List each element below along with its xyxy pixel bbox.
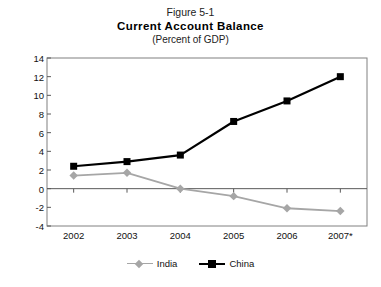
data-point-marker <box>283 204 291 212</box>
x-axis-tick-label: 2006 <box>276 230 297 241</box>
y-axis-tick-label: 4 <box>39 146 44 157</box>
legend-label: India <box>157 258 178 269</box>
y-axis-tick-label: 6 <box>39 127 44 138</box>
legend-marker-square <box>208 260 216 268</box>
data-point-marker <box>337 73 344 80</box>
y-axis-tick-label: -2 <box>36 202 44 213</box>
y-axis-tick-label: 8 <box>39 109 44 120</box>
legend-item-india[interactable]: India <box>127 258 178 269</box>
legend-marker-diamond <box>135 259 143 267</box>
series-india <box>69 169 344 216</box>
data-point-marker <box>229 192 237 200</box>
legend-item-china[interactable]: China <box>199 258 254 269</box>
legend-label: China <box>229 258 254 269</box>
series-line <box>74 77 341 167</box>
x-axis-tick-label: 2003 <box>116 230 137 241</box>
data-point-marker <box>123 169 131 177</box>
data-point-marker <box>70 163 77 170</box>
data-point-marker <box>284 97 291 104</box>
y-axis-tick-label: 10 <box>33 90 44 101</box>
y-axis-labels: 14121086420-2-4 <box>22 52 44 226</box>
y-axis-tick-label: 14 <box>33 53 44 64</box>
figure-container: Figure 5-1 Current Account Balance (Perc… <box>0 0 381 287</box>
y-axis-tick-label: 2 <box>39 165 44 176</box>
plot-frame <box>47 58 367 226</box>
data-point-marker <box>336 207 344 215</box>
data-point-marker <box>230 118 237 125</box>
y-axis-tick-label: 12 <box>33 71 44 82</box>
data-point-marker <box>177 152 184 159</box>
x-axis-tick-label: 2005 <box>223 230 244 241</box>
series-china <box>70 73 344 170</box>
legend-swatch <box>199 259 225 269</box>
y-axis-tick-label: -4 <box>36 221 44 232</box>
legend-swatch <box>127 259 153 269</box>
data-point-marker <box>124 158 131 165</box>
series-line <box>74 173 341 211</box>
y-axis-tick-label: 0 <box>39 183 44 194</box>
x-axis-labels: 200220032004200520062007* <box>47 230 367 246</box>
x-axis-tick-label: 2002 <box>63 230 84 241</box>
chart-legend: IndiaChina <box>0 258 381 269</box>
x-axis-tick-label: 2004 <box>170 230 191 241</box>
data-point-marker <box>176 184 184 192</box>
data-point-marker <box>69 171 77 179</box>
x-axis-tick-label: 2007* <box>328 230 353 241</box>
